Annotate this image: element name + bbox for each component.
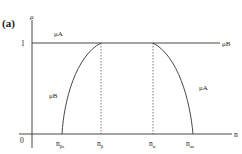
- x-tick-n-beta: nβ: [97, 139, 104, 149]
- x-axis-label: n: [234, 130, 238, 139]
- panel-label: (a): [2, 17, 15, 30]
- origin-label: 0: [20, 136, 24, 145]
- membership-function-diagram: (a) μ n 0 1 μA μB μB μA nβs nβ nα nαs: [0, 0, 242, 154]
- mu-a-curve-label: μA: [199, 84, 208, 92]
- y-tick-one: 1: [21, 39, 25, 48]
- x-tick-n-alpha-s: nαs: [186, 139, 194, 149]
- mu-b-curve-label: μB: [49, 92, 58, 100]
- x-tick-n-alpha: nα: [149, 139, 156, 149]
- y-axis-label: μ: [30, 13, 34, 21]
- mu-a-falling-curve: [153, 43, 193, 134]
- mu-a-top-label: μA: [54, 30, 63, 38]
- x-tick-n-beta-s: nβs: [56, 139, 64, 149]
- mu-b-right-label: μB: [222, 40, 231, 48]
- mu-b-rising-curve: [62, 43, 101, 134]
